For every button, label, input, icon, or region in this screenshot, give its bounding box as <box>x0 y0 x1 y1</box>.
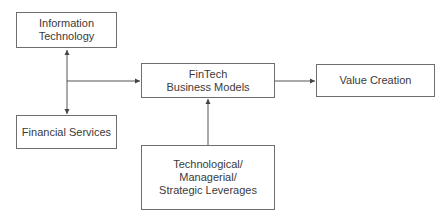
information-technology-box: Information Technology <box>16 12 117 48</box>
leverages-label: Technological/ Managerial/ Strategic Lev… <box>159 158 257 197</box>
fintech-business-models-box: FinTech Business Models <box>141 63 275 98</box>
financial-services-label: Financial Services <box>22 126 111 139</box>
financial-services-box: Financial Services <box>16 115 117 149</box>
information-technology-label: Information Technology <box>39 17 95 43</box>
fintech-business-models-label: FinTech Business Models <box>166 68 249 94</box>
leverages-box: Technological/ Managerial/ Strategic Lev… <box>141 145 275 210</box>
value-creation-label: Value Creation <box>340 74 412 87</box>
value-creation-box: Value Creation <box>316 64 435 97</box>
